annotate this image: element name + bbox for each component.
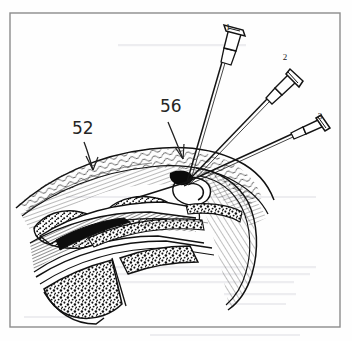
figure-root: 1 2 3 52 56 bbox=[0, 0, 352, 341]
needle-1-label: 1 bbox=[226, 22, 231, 32]
needle-2-label: 2 bbox=[283, 52, 288, 62]
needle-3-label: 3 bbox=[318, 111, 323, 121]
anatomical-figure-svg: 1 2 3 52 56 bbox=[0, 0, 352, 341]
annotation-52-text: 52 bbox=[72, 118, 94, 138]
annotation-56-text: 56 bbox=[160, 96, 182, 116]
